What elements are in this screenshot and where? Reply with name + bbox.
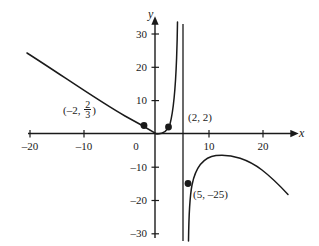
point-marker-left (141, 122, 148, 129)
curve-middle-branch (156, 22, 178, 134)
y-tick-label--30: –30 (113, 228, 147, 239)
y-tick-label--20: –20 (113, 195, 147, 206)
annotation-point-left: (–2, 23) (63, 101, 96, 121)
fraction-denominator: 3 (84, 109, 91, 120)
x-tick-label--20: –20 (14, 141, 46, 152)
y-tick-label--10: –10 (113, 162, 147, 173)
x-axis-label: x (299, 127, 304, 139)
annotation-left-open: (–2, (63, 104, 83, 116)
graph-canvas (0, 0, 319, 246)
annotation-point-middle: (2, 2) (188, 111, 212, 123)
x-tick-label-10: 10 (193, 141, 225, 152)
x-tick-label-0: 0 (126, 141, 146, 152)
fraction-numerator: 2 (84, 100, 91, 109)
y-tick-label-10: 10 (113, 95, 147, 106)
x-tick-label-20: 20 (247, 141, 279, 152)
y-tick-label-30: 30 (113, 29, 147, 40)
graph-figure: –20 –10 0 10 20 30 20 10 –10 –20 –30 x y… (0, 0, 319, 246)
point-marker-right (185, 180, 192, 187)
y-tick-label-20: 20 (113, 62, 147, 73)
y-axis-label: y (148, 8, 153, 20)
annotation-left-fraction: 23 (84, 100, 91, 120)
annotation-left-close: ) (92, 104, 96, 116)
x-tick-label--10: –10 (68, 141, 100, 152)
point-marker-middle (165, 124, 172, 131)
annotation-point-right: (5, –25) (193, 188, 228, 200)
